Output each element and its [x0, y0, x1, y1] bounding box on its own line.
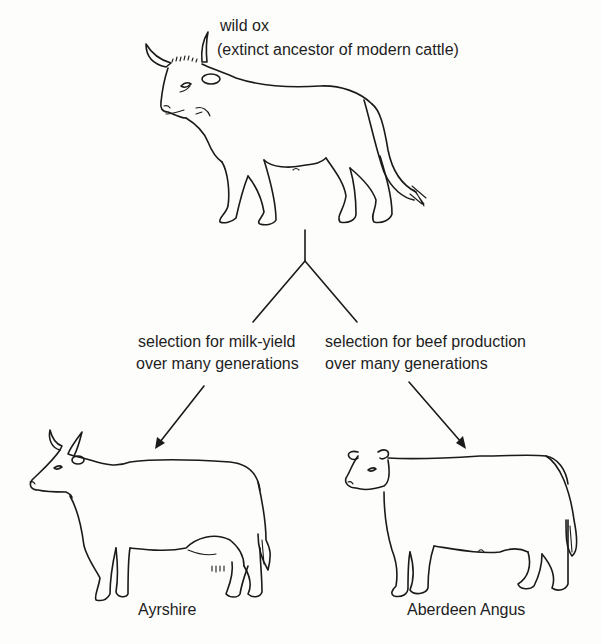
- diagram-artwork: [0, 0, 602, 644]
- cattle-selection-diagram: wild ox (extinct ancestor of modern catt…: [0, 0, 602, 644]
- beef-selection-label-line2: over many generations: [325, 354, 488, 374]
- beef-selection-label-line1: selection for beef production: [325, 332, 526, 352]
- ayrshire-label: Ayrshire: [138, 600, 196, 620]
- milk-selection-label-line2: over many generations: [136, 354, 299, 374]
- ayrshire-illustration: [30, 430, 270, 601]
- wild-ox-description: (extinct ancestor of modern cattle): [217, 40, 459, 60]
- aberdeen-angus-illustration: [346, 450, 577, 597]
- arrow-to-ayrshire: [155, 386, 204, 449]
- wild-ox-illustration: [146, 32, 426, 225]
- aberdeen-angus-label: Aberdeen Angus: [407, 600, 525, 620]
- milk-selection-label-line1: selection for milk-yield: [138, 332, 295, 352]
- arrow-to-aberdeen-angus: [409, 382, 466, 449]
- wild-ox-label: wild ox: [220, 16, 269, 36]
- branching-connector: [253, 230, 357, 322]
